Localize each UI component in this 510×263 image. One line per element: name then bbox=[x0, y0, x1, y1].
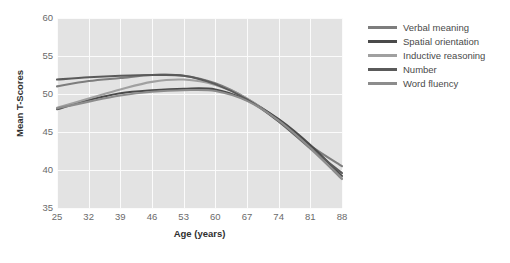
y-tick-label: 50 bbox=[27, 89, 53, 99]
legend-item[interactable]: Inductive reasoning bbox=[368, 49, 508, 62]
x-tick-label: 74 bbox=[264, 211, 294, 223]
legend-color-swatch bbox=[368, 68, 397, 71]
legend-color-swatch bbox=[368, 26, 397, 29]
legend-color-swatch bbox=[368, 82, 397, 85]
x-tick-label: 46 bbox=[137, 211, 167, 223]
legend-label: Word fluency bbox=[403, 78, 458, 89]
y-tick-label: 60 bbox=[27, 13, 53, 23]
legend-item[interactable]: Verbal meaning bbox=[368, 21, 508, 34]
y-tick-label: 40 bbox=[27, 165, 53, 175]
x-tick-label: 60 bbox=[200, 211, 230, 223]
legend-label: Spatial orientation bbox=[403, 36, 479, 47]
legend-item[interactable]: Spatial orientation bbox=[368, 35, 508, 48]
legend-label: Number bbox=[403, 64, 437, 75]
plot-area bbox=[57, 18, 342, 208]
chart-legend: Verbal meaningSpatial orientationInducti… bbox=[368, 21, 508, 91]
x-tick-label: 32 bbox=[74, 211, 104, 223]
legend-item[interactable]: Number bbox=[368, 63, 508, 76]
series-lines bbox=[57, 18, 342, 208]
x-tick-label: 39 bbox=[105, 211, 135, 223]
chart-page: 354045505560 25323946536067748188 Mean T… bbox=[0, 0, 510, 263]
x-axis-ticks: 25323946536067748188 bbox=[57, 211, 342, 225]
x-tick-label: 53 bbox=[169, 211, 199, 223]
legend-color-swatch bbox=[368, 54, 397, 57]
x-axis-label: Age (years) bbox=[57, 228, 342, 239]
x-tick-label: 67 bbox=[232, 211, 262, 223]
series-line bbox=[57, 88, 342, 176]
legend-item[interactable]: Word fluency bbox=[368, 77, 508, 90]
x-tick-label: 88 bbox=[327, 211, 357, 223]
x-tick-label: 81 bbox=[295, 211, 325, 223]
series-line bbox=[57, 79, 342, 178]
y-axis-ticks: 354045505560 bbox=[25, 18, 53, 208]
legend-label: Inductive reasoning bbox=[403, 50, 485, 61]
legend-color-swatch bbox=[368, 40, 397, 43]
gridline-horizontal bbox=[57, 208, 342, 209]
y-axis-label: Mean T-Scores bbox=[14, 54, 25, 154]
y-tick-label: 55 bbox=[27, 51, 53, 61]
y-tick-label: 45 bbox=[27, 127, 53, 137]
x-tick-label: 25 bbox=[42, 211, 72, 223]
legend-label: Verbal meaning bbox=[403, 22, 469, 33]
